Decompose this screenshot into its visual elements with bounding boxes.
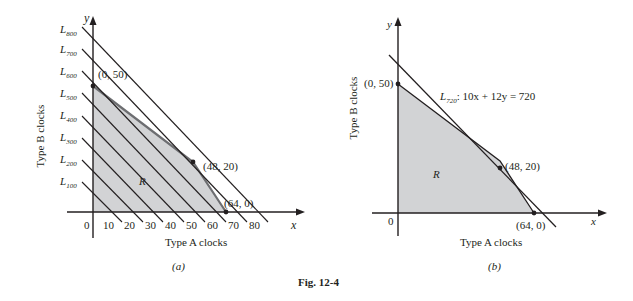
origin-label-b: 0 xyxy=(388,215,394,227)
x-axis-title-b: Type A clocks xyxy=(460,236,522,248)
vertex-64-0-b xyxy=(532,211,537,216)
svg-text:L300: L300 xyxy=(59,131,77,146)
x-tick-50: 50 xyxy=(186,219,198,231)
y-axis-title-b: Type B clocks xyxy=(347,77,359,140)
y-axis-arrow-a xyxy=(90,16,97,25)
svg-text:L400: L400 xyxy=(59,109,77,124)
x-tick-60: 60 xyxy=(207,219,219,231)
vertex-label-48-20-b: (48, 20) xyxy=(505,160,540,173)
panel-label-a: (a) xyxy=(172,260,185,273)
optimal-line-label: L720: 10x + 12y = 720 xyxy=(439,90,536,105)
panel-b: y x 0 (0, 50) (48, 20) (64, 0) L720: 10x… xyxy=(347,17,607,273)
x-tick-70: 70 xyxy=(228,219,240,231)
panel-a: y x 0 10 20 30 40 50 60 70 80 L100 L200 … xyxy=(34,11,305,273)
x-tick-10: 10 xyxy=(103,219,115,231)
x-tick-80: 80 xyxy=(249,219,261,231)
vertex-48-20-b xyxy=(498,166,503,171)
feasible-region-b xyxy=(398,84,534,213)
panel-label-b: (b) xyxy=(488,260,501,273)
region-label-b: R xyxy=(432,168,440,180)
x-axis-arrow-a xyxy=(296,209,305,216)
x-tick-20: 20 xyxy=(124,219,136,231)
x-axis-title-a: Type A clocks xyxy=(165,236,227,248)
figure-canvas: y x 0 10 20 30 40 50 60 70 80 L100 L200 … xyxy=(0,0,633,301)
vertex-48-20-a xyxy=(191,160,196,165)
x-tick-30: 30 xyxy=(145,219,157,231)
vertex-label-64-0-a: (64, 0) xyxy=(224,197,254,210)
y-axis-var-a: y xyxy=(83,11,90,25)
y-axis-title-a: Type B clocks xyxy=(34,105,46,168)
svg-text:L700: L700 xyxy=(59,43,77,58)
x-tick-40: 40 xyxy=(165,219,177,231)
origin-label-a: 0 xyxy=(84,219,90,231)
vertex-0-50-a xyxy=(91,84,96,89)
svg-text:L200: L200 xyxy=(59,153,77,168)
svg-text:L500: L500 xyxy=(59,87,77,102)
vertex-label-64-0-b: (64, 0) xyxy=(516,219,546,232)
svg-text:L100: L100 xyxy=(59,175,77,190)
x-axis-var-b: x xyxy=(590,215,596,227)
svg-text:L800: L800 xyxy=(59,23,77,38)
vertex-64-0-a xyxy=(224,210,229,215)
x-axis-var-a: x xyxy=(290,218,297,232)
vertex-label-0-50-b: (0, 50) xyxy=(364,77,394,90)
vertex-label-0-50-a: (0, 50) xyxy=(98,68,128,81)
svg-text:L600: L600 xyxy=(59,65,77,80)
vertex-label-48-20-a: (48, 20) xyxy=(203,160,238,173)
feasible-region-a xyxy=(93,86,226,212)
figure-caption: Fig. 12-4 xyxy=(298,276,339,288)
x-axis-arrow-b xyxy=(598,210,607,217)
level-line-labels: L100 L200 L300 L400 L500 L600 L700 L800 xyxy=(59,23,77,190)
vertex-0-50-b xyxy=(396,82,401,87)
y-axis-var-b: y xyxy=(386,18,392,30)
x-tick-labels-a: 10 20 30 40 50 60 70 80 xyxy=(103,219,261,231)
y-axis-arrow-b xyxy=(395,17,402,26)
region-label-a: R xyxy=(138,175,146,187)
